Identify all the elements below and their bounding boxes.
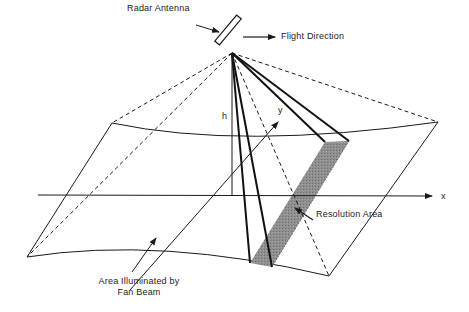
sar-geometry-diagram: [0, 0, 469, 312]
resolution-area-label: Resolution Area: [316, 209, 383, 220]
area-illuminated-label: Area Illuminated by Fan Beam: [84, 276, 194, 298]
y-axis-label: y: [278, 105, 283, 116]
x-axis-label: x: [441, 191, 446, 202]
resolution-area-band: [250, 141, 349, 267]
radar-antenna-icon: [215, 15, 241, 45]
radar-antenna-label: Radar Antenna: [127, 3, 190, 14]
y-axis: [130, 122, 278, 290]
area-pointer-arrow: [132, 238, 156, 272]
height-label: h: [222, 111, 227, 122]
x-axis: [38, 195, 432, 196]
near-edge-curve: [27, 250, 329, 276]
antenna-pointer-arrow: [196, 25, 219, 32]
area-illuminated-line1: Area Illuminated by: [84, 276, 194, 287]
left-edge: [27, 123, 112, 257]
area-illuminated-line2: Fan Beam: [84, 287, 194, 298]
flight-direction-label: Flight Direction: [281, 31, 344, 42]
